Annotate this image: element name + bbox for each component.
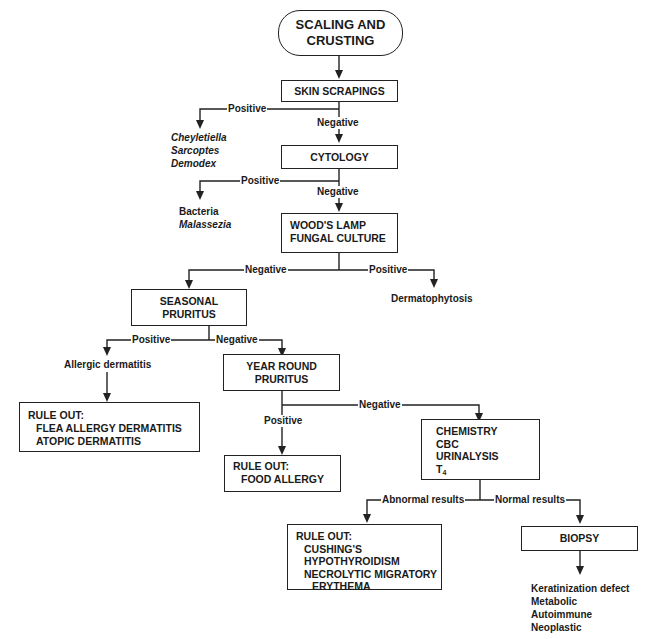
edge-label-seasonal-negative: Negative <box>215 334 259 346</box>
woods-lamp-line1: WOOD'S LAMP <box>290 219 397 232</box>
seasonal-line2: PRURITUS <box>160 308 218 321</box>
edge-label-seasonal-positive: Positive <box>131 334 171 346</box>
skin-scrapings-node: SKIN SCRAPINGS <box>281 80 398 102</box>
start-node-line1: SCALING AND <box>296 17 386 33</box>
year-round-line2: PRURITUS <box>246 373 317 386</box>
lab-urinalysis: URINALYSIS <box>436 450 539 463</box>
lab-t4: T4 <box>436 463 539 480</box>
rule-out-heading: RULE OUT: <box>296 530 441 543</box>
outcome-metabolic: Metabolic <box>531 595 629 608</box>
lab-cbc: CBC <box>436 438 539 451</box>
edge-label-yearround-negative: Negative <box>358 399 402 411</box>
edge-label-cytology-positive: Positive <box>240 175 280 187</box>
outcome-sarcoptes: Sarcoptes <box>171 144 227 157</box>
outcome-autoimmune: Autoimmune <box>531 608 629 621</box>
rule-out-heading: RULE OUT: <box>233 460 340 473</box>
edge-label-lab-abnormal: Abnormal results <box>381 494 465 506</box>
edge-label-woods-negative: Negative <box>244 264 288 276</box>
start-node-scaling-crusting: SCALING AND CRUSTING <box>278 10 403 56</box>
allergic-dermatitis-outcome: Allergic dermatitis <box>64 358 151 371</box>
seasonal-line1: SEASONAL <box>160 295 218 308</box>
seasonal-pruritus-node: SEASONAL PRURITUS <box>131 289 247 326</box>
cytology-node: CYTOLOGY <box>281 145 398 169</box>
rule-out-heading: RULE OUT: <box>28 409 199 422</box>
edge-label-cytology-negative: Negative <box>316 186 360 198</box>
edge-label-woods-positive: Positive <box>368 264 408 276</box>
outcome-keratinization: Keratinization defect <box>531 582 629 595</box>
woods-lamp-line2: FUNGAL CULTURE <box>290 232 397 245</box>
rule-out-allergy-node: RULE OUT: FLEA ALLERGY DERMATITIS ATOPIC… <box>19 402 200 452</box>
edge-label-scrapings-positive: Positive <box>227 103 267 115</box>
outcome-cheyletiella: Cheyletiella <box>171 131 227 144</box>
skin-scrapings-label: SKIN SCRAPINGS <box>294 85 384 98</box>
biopsy-label: BIOPSY <box>560 532 600 545</box>
rule-out-hypothyroidism: HYPOTHYROIDISM <box>296 555 441 568</box>
outcome-neoplastic: Neoplastic <box>531 621 629 634</box>
rule-out-food-allergy: FOOD ALLERGY <box>233 473 340 486</box>
outcome-demodex: Demodex <box>171 157 227 170</box>
cytology-label: CYTOLOGY <box>310 151 369 164</box>
edge-label-lab-normal: Normal results <box>494 494 566 506</box>
rule-out-necrolytic: NECROLYTIC MIGRATORY <box>296 568 441 581</box>
rule-out-endocrine-node: RULE OUT: CUSHING'S HYPOTHYROIDISM NECRO… <box>287 524 442 590</box>
rule-out-cushings: CUSHING'S <box>296 543 441 556</box>
dermatophytosis-outcome: Dermatophytosis <box>391 292 473 305</box>
lab-tests-node: CHEMISTRY CBC URINALYSIS T4 <box>421 419 540 480</box>
edge-label-scrapings-negative: Negative <box>316 117 360 129</box>
woods-lamp-node: WOOD'S LAMP FUNGAL CULTURE <box>281 213 398 253</box>
biopsy-node: BIOPSY <box>521 526 638 551</box>
outcome-malassezia: Malassezia <box>179 218 231 231</box>
start-node-line2: CRUSTING <box>296 33 386 49</box>
lab-chemistry: CHEMISTRY <box>436 425 539 438</box>
rule-out-erythema: ERYTHEMA <box>296 580 441 593</box>
parasites-outcome: Cheyletiella Sarcoptes Demodex <box>171 131 227 170</box>
edge-label-yearround-positive: Positive <box>263 415 303 427</box>
lab-t4-subscript: 4 <box>442 469 446 476</box>
rule-out-atopic: ATOPIC DERMATITIS <box>28 435 199 448</box>
year-round-line1: YEAR ROUND <box>246 360 317 373</box>
infection-outcome: Bacteria Malassezia <box>179 205 231 231</box>
rule-out-food-node: RULE OUT: FOOD ALLERGY <box>224 455 341 492</box>
rule-out-flea-allergy: FLEA ALLERGY DERMATITIS <box>28 422 199 435</box>
outcome-bacteria: Bacteria <box>179 205 231 218</box>
year-round-pruritus-node: YEAR ROUND PRURITUS <box>223 354 340 391</box>
biopsy-results-outcome: Keratinization defect Metabolic Autoimmu… <box>531 582 629 634</box>
